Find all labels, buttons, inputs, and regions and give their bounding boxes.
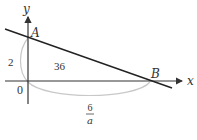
point-b-label: B bbox=[150, 67, 160, 81]
oa-brace-arc bbox=[21, 38, 29, 82]
origin-label: 0 bbox=[17, 83, 23, 97]
oa-length-label: 2 bbox=[8, 56, 14, 68]
coordinate-diagram: y x A B 0 2 36 6 a bbox=[0, 0, 197, 140]
x-axis-label: x bbox=[187, 74, 194, 88]
area-label: 36 bbox=[54, 60, 66, 72]
y-axis-label: y bbox=[22, 2, 30, 16]
point-a-label: A bbox=[30, 26, 40, 40]
ob-denominator: a bbox=[87, 115, 93, 126]
ob-brace-arc bbox=[28, 82, 150, 96]
ob-numerator: 6 bbox=[88, 102, 93, 113]
